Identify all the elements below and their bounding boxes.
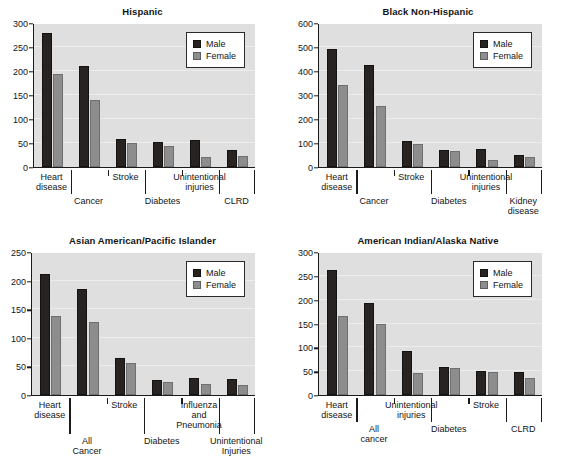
x-axis-label: AllCancer [72,436,101,456]
x-axis-label-line: injuries [173,182,226,192]
x-tick-mark [254,170,255,194]
x-axis-label: CLRD [224,196,249,206]
legend: MaleFemale [186,261,245,297]
x-axis-label-line: Injuries [210,446,263,456]
y-tick-mark [314,324,318,325]
x-tick-mark [431,398,432,422]
x-axis-label: Stroke [473,400,499,410]
y-tick-label: 200 [0,277,26,287]
y-tick-mark [29,71,33,72]
y-tick-mark [29,143,33,144]
x-axis-label-line: Stroke [112,172,138,182]
bar-female [90,100,100,167]
plot-area: MaleFemale [33,24,255,168]
bar-female [53,74,63,167]
x-tick-mark [71,170,72,194]
bar-female [164,146,174,167]
x-axis-label: InfluenzaandPneumonia [176,400,222,431]
x-axis-label-line: disease [321,182,352,192]
y-tick-label: 400 [285,67,313,77]
x-axis-label: Cancer [359,196,388,206]
bar-male [514,155,524,167]
y-tick-label: 150 [0,91,28,101]
bar-male [190,140,200,167]
bar-female [413,144,423,167]
legend-label-female: Female [206,280,236,290]
legend-item-male: Male [480,268,523,278]
y-tick-mark [29,23,33,24]
legend: MaleFemale [473,32,532,68]
bar-female [413,373,423,395]
bar-male [189,378,199,395]
x-tick-mark [69,398,70,434]
bar-female [238,156,248,167]
bar-male [439,150,449,167]
y-tick-label: 150 [285,320,313,330]
y-tick-label: 300 [285,248,313,258]
bar-male [42,33,52,167]
x-axis-label: Heartdisease [36,172,67,192]
bar-female [201,384,211,395]
y-tick-label: 0 [285,391,313,401]
bar-female [201,157,211,167]
x-axis-label-line: Unintentional [460,172,513,182]
legend: MaleFemale [186,32,245,68]
bar-female [338,85,348,167]
y-tick-label: 100 [0,115,28,125]
x-axis-label: Cancer [74,196,103,206]
chart-title: Hispanic [0,6,285,17]
x-axis-label-line: Pneumonia [176,420,222,430]
y-tick-mark [27,309,31,310]
x-axis-label: CLRD [511,424,536,434]
x-axis-label: Stroke [112,172,138,182]
legend-swatch-female [480,281,488,289]
x-tick-mark [541,170,542,194]
y-tick-mark [314,348,318,349]
x-axis-label: Kidneydisease [508,196,539,216]
x-axis-label: Diabetes [431,196,467,206]
legend-item-female: Female [193,280,236,290]
x-axis-label-line: and [176,410,222,420]
x-axis-label: Unintentionalinjuries [385,400,438,420]
panel-american-indian-alaska-native: American Indian/Alaska NativeMaleFemale0… [285,229,571,458]
bar-male [115,358,125,395]
x-tick-mark [107,398,108,404]
x-axis-label: Heartdisease [321,172,352,192]
plot-area: MaleFemale [318,24,542,168]
x-tick-mark [431,170,432,194]
y-tick-mark [27,252,31,253]
y-tick-mark [314,300,318,301]
bar-female [376,106,386,167]
bar-female [126,363,136,395]
legend-label-male: Male [493,39,513,49]
x-axis-label-line: Cancer [359,196,388,206]
x-axis-label-line: disease [34,410,65,420]
y-tick-label: 100 [285,139,313,149]
y-tick-mark [29,47,33,48]
y-tick-mark [27,395,31,396]
x-axis-label-line: Heart [321,400,352,410]
y-tick-mark [314,47,318,48]
legend-label-male: Male [206,268,226,278]
x-axis-label-line: injuries [385,410,438,420]
legend-swatch-female [193,281,201,289]
x-axis-label-line: Heart [34,400,65,410]
x-tick-mark [219,170,220,194]
y-tick-label: 100 [285,343,313,353]
x-tick-mark [541,398,542,422]
bar-male [402,351,412,395]
x-axis-label-line: disease [36,182,67,192]
bar-male [152,380,162,395]
legend-label-male: Male [206,39,226,49]
x-axis-label: Diabetes [144,436,180,446]
bar-male [327,270,337,395]
y-tick-mark [314,276,318,277]
legend-swatch-female [193,52,201,60]
x-axis-label: Unintentionalinjuries [460,172,513,192]
panel-hispanic: HispanicMaleFemale050100150200250300Hear… [0,0,285,229]
bar-female [89,322,99,395]
y-tick-mark [314,23,318,24]
x-tick-mark [254,398,255,434]
legend-swatch-female [480,52,488,60]
x-axis-label: Diabetes [431,424,467,434]
